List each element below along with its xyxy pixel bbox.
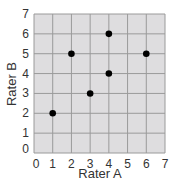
y-tick-label: 3 [22, 86, 29, 100]
x-tick-label: 2 [68, 157, 75, 171]
data-point [106, 31, 113, 38]
y-tick-label: 1 [22, 126, 29, 140]
y-tick-label: 4 [22, 67, 29, 81]
x-axis-label: Rater A [78, 166, 122, 181]
y-axis-ticks: 01234567 [22, 7, 29, 156]
y-axis-label: Rater B [4, 62, 19, 106]
data-point [87, 90, 94, 97]
data-point [143, 50, 150, 57]
y-tick-label: 5 [22, 47, 29, 61]
x-tick-label: 5 [124, 157, 131, 171]
scatter-chart: 01234567 01234567 Rater A Rater B [0, 0, 178, 184]
y-tick-label: 6 [22, 27, 29, 41]
data-point [68, 50, 75, 57]
data-point [49, 110, 56, 117]
y-tick-label: 7 [22, 7, 29, 21]
x-tick-label: 0 [33, 157, 40, 171]
y-tick-label: 2 [22, 106, 29, 120]
data-point [106, 70, 113, 77]
x-tick-label: 7 [162, 157, 169, 171]
x-tick-label: 6 [143, 157, 150, 171]
y-tick-label: 0 [22, 142, 29, 156]
x-tick-label: 1 [49, 157, 56, 171]
plot-area [34, 14, 165, 153]
